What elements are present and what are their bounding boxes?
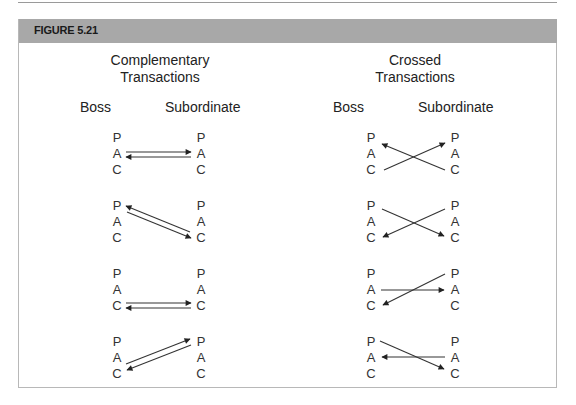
arrow-cross1-sub-c-to-boss-p <box>382 144 445 170</box>
transaction-arrows <box>0 0 576 405</box>
arrow-cross4-boss-p-to-sub-c <box>380 341 444 369</box>
arrow-comp4-sub-p-to-boss-c <box>127 345 191 370</box>
arrow-comp2-sub-c-to-boss-p <box>126 206 190 232</box>
arrow-comp4-boss-c-to-sub-p <box>126 339 190 364</box>
arrow-comp2-boss-p-to-sub-c <box>127 212 191 238</box>
